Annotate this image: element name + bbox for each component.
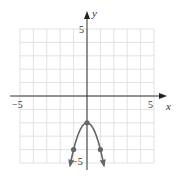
coordinate-plane: −5 5 x 5 −5 y (0, 0, 181, 179)
x-axis-arrow-icon (159, 93, 167, 99)
y-min-label: −5 (72, 156, 83, 167)
y-axis-arrow-icon (84, 11, 90, 19)
data-point (71, 147, 76, 152)
data-point (98, 147, 103, 152)
y-max-label: 5 (79, 24, 84, 35)
data-point (84, 120, 89, 125)
x-max-label: 5 (148, 99, 153, 110)
x-axis-label: x (165, 100, 171, 112)
x-min-label: −5 (12, 99, 23, 110)
y-axis-label: y (91, 7, 97, 19)
